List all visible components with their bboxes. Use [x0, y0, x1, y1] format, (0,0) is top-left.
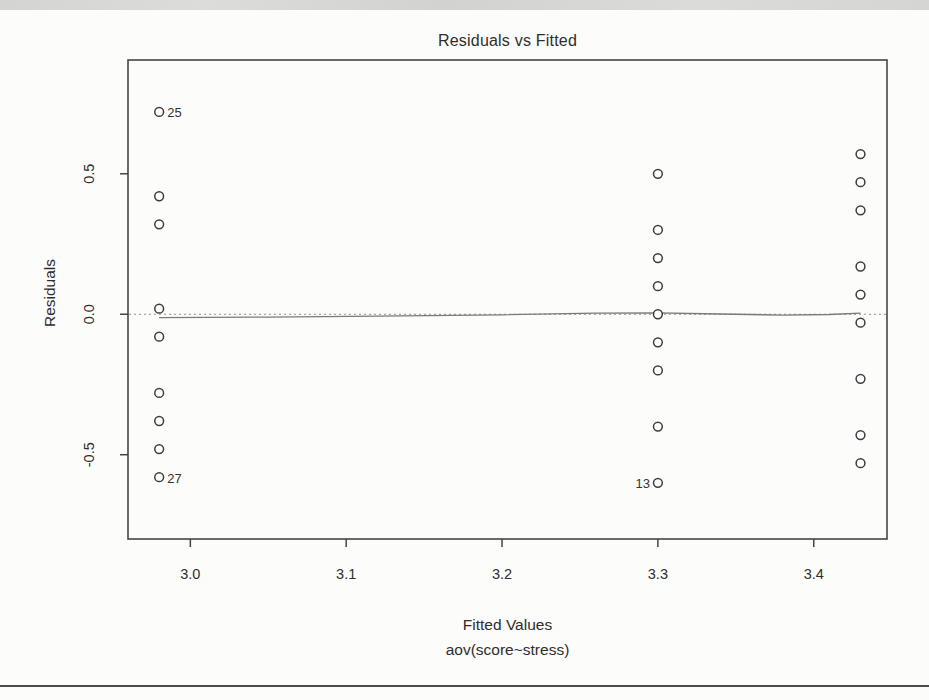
point-id-label: 25 — [167, 105, 181, 120]
data-point — [856, 374, 865, 383]
x-tick-label: 3.4 — [804, 566, 824, 582]
data-point — [856, 318, 865, 327]
x-tick-label: 3.3 — [648, 566, 668, 582]
data-point — [653, 422, 662, 431]
x-axis-label: Fitted Values — [128, 616, 887, 634]
x-tick-label: 3.0 — [180, 566, 200, 582]
data-point — [653, 169, 662, 178]
data-point — [856, 459, 865, 468]
point-id-label: 13 — [635, 476, 649, 491]
data-point — [653, 366, 662, 375]
data-point — [155, 304, 164, 313]
x-tick-label: 3.2 — [492, 566, 512, 582]
scanned-page: Residuals vs Fitted Residuals 3.03.13.23… — [0, 0, 929, 700]
data-point — [155, 332, 164, 341]
plot-box — [128, 60, 887, 539]
model-call-label: aov(score~stress) — [128, 641, 887, 659]
data-point — [155, 473, 164, 482]
data-point — [155, 108, 164, 117]
data-point — [653, 226, 662, 235]
data-point — [653, 310, 662, 319]
smoother-line — [159, 313, 860, 318]
data-point — [856, 150, 865, 159]
y-tick-label: -0.5 — [81, 442, 97, 467]
data-point — [155, 389, 164, 398]
data-point — [856, 262, 865, 271]
y-tick-label: 0.5 — [81, 164, 97, 184]
data-point — [653, 282, 662, 291]
x-tick-label: 3.1 — [336, 566, 356, 582]
data-point — [856, 431, 865, 440]
data-point — [856, 178, 865, 187]
data-point — [653, 254, 662, 263]
data-point — [155, 220, 164, 229]
y-tick-label: 0.0 — [81, 304, 97, 324]
plot-canvas: 3.03.13.23.33.40.50.0-0.5252713 — [0, 0, 929, 700]
data-point — [155, 417, 164, 426]
point-id-label: 27 — [167, 471, 181, 486]
page-bottom-rule — [0, 685, 929, 687]
data-point — [155, 192, 164, 201]
data-point — [856, 290, 865, 299]
data-point — [155, 445, 164, 454]
data-point — [653, 478, 662, 487]
data-point — [653, 338, 662, 347]
data-point — [856, 206, 865, 215]
